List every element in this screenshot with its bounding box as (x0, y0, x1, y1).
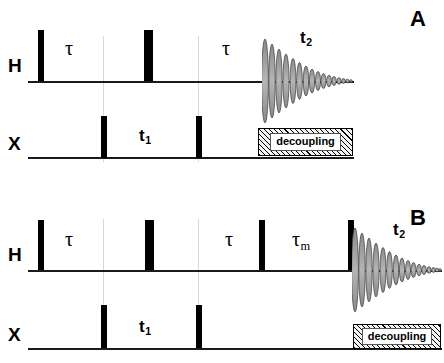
channel-label-x: X (8, 325, 21, 344)
delay-label-tau-2: τ (225, 229, 233, 249)
evolution-label-t1: t1 (139, 127, 151, 144)
x-pulse-t1-start (101, 116, 107, 158)
decoupling-block-panel-a: decoupling (258, 128, 353, 156)
fid-signal-panel-b (352, 227, 444, 315)
delay-label-tau-1: τ (65, 229, 73, 249)
x-pulse-t1-start (101, 305, 107, 348)
h-pulse-180-refocus (144, 30, 153, 81)
evolution-label-t1-base: t (139, 126, 145, 145)
delay-label-tau-2: τ (222, 38, 230, 58)
decoupling-label: decoupling (270, 133, 341, 150)
x-channel-baseline (28, 157, 354, 159)
decoupling-label: decoupling (362, 328, 433, 345)
evolution-label-t1-sub: 1 (145, 134, 151, 146)
nmr-pulse-sequence-figure: A H τ τ t2 (0, 0, 444, 363)
h-pulse-180-refocus (145, 220, 154, 270)
x-pulse-t1-end (196, 116, 202, 158)
delay-label-tau-m-base: τ (292, 228, 300, 250)
h-pulse-90-excitation (38, 220, 44, 270)
panel-letter-b: B (410, 207, 426, 229)
evolution-label-t1-base: t (139, 317, 145, 336)
h-pulse-90-store (259, 220, 265, 270)
panel-letter-a: A (410, 8, 426, 30)
channel-label-h: H (8, 245, 22, 264)
evolution-label-t1-sub: 1 (145, 325, 151, 337)
fid-signal-panel-a (262, 38, 358, 126)
channel-label-h: H (8, 56, 22, 75)
panel-b: B H τ τ τm t2 (0, 185, 444, 363)
channel-label-x: X (8, 134, 21, 153)
panel-a: A H τ τ t2 (0, 0, 444, 185)
h-pulse-90-excitation (38, 30, 44, 81)
evolution-label-t1: t1 (139, 318, 151, 335)
x-pulse-t1-end (196, 305, 202, 348)
delay-label-tau-1: τ (65, 38, 73, 58)
decoupling-block-panel-b: decoupling (353, 324, 441, 349)
delay-label-tau-m: τm (292, 229, 310, 249)
delay-label-tau-m-sub: m (300, 239, 310, 253)
